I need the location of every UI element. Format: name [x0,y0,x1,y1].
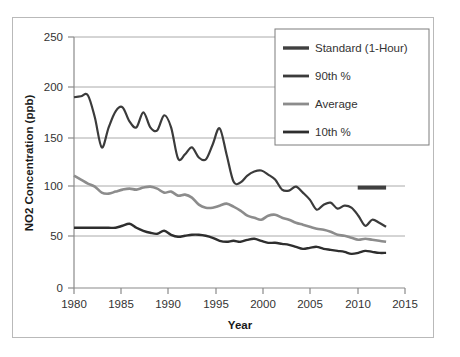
x-tick-label-2015: 2015 [392,298,418,310]
no2-concentration-line-chart: 250 200 150 100 50 0 1980 1985 1990 1995… [13,18,433,337]
x-axis-title: Year [228,319,253,331]
y-tick-label-200: 200 [44,81,63,93]
legend-label-90th: 90th % [315,70,351,82]
x-tick-label-1985: 1985 [108,298,134,310]
x-tick-label-1980: 1980 [61,298,87,310]
x-tick-label-2000: 2000 [250,298,276,310]
x-tick-label-1990: 1990 [155,298,181,310]
chart-legend: Standard (1-Hour) 90th % Average 10th % [275,29,429,145]
y-tick-label-0: 0 [57,282,63,294]
x-tick-label-2010: 2010 [345,298,371,310]
y-tick-label-100: 100 [44,180,63,192]
legend-label-average: Average [315,98,358,110]
legend-label-10th: 10th % [315,126,351,138]
legend-label-standard: Standard (1-Hour) [315,42,408,54]
y-tick-label-250: 250 [44,31,63,43]
y-axis-title: NO2 Concentration (ppb) [23,94,35,231]
x-tick-label-2005: 2005 [297,298,323,310]
y-tick-label-150: 150 [44,132,63,144]
chart-frame: 250 200 150 100 50 0 1980 1985 1990 1995… [12,17,434,338]
chart-figure: 250 200 150 100 50 0 1980 1985 1990 1995… [0,0,460,357]
x-tick-label-1995: 1995 [203,298,229,310]
y-tick-label-50: 50 [50,230,63,242]
